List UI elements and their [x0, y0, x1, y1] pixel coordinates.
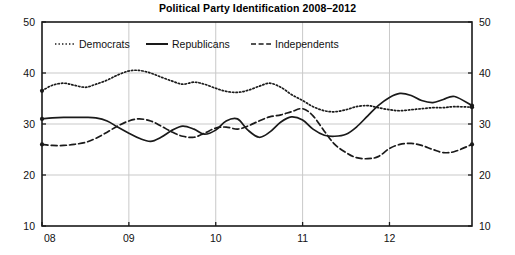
series-start-marker-independents: [40, 142, 44, 146]
y-axis-right-tick-label: 50: [479, 16, 491, 28]
x-axis-labels: 0809101112: [44, 232, 395, 244]
gridlines: [42, 22, 472, 226]
x-axis-tick-label: 10: [210, 232, 222, 244]
y-axis-right-tick-label: 10: [479, 220, 491, 232]
y-axis-left-tick-label: 30: [23, 118, 35, 130]
y-axis-left-tick-label: 50: [23, 16, 35, 28]
x-axis-tick-label: 11: [297, 232, 308, 244]
y-axis-left-labels: 1020304050: [23, 16, 35, 232]
y-axis-right-labels: 1020304050: [479, 16, 491, 232]
y-axis-left-tick-label: 20: [23, 169, 35, 181]
series-line-democrats: [42, 70, 472, 112]
series-end-marker-independents: [470, 142, 474, 146]
series-start-marker-republicans: [40, 117, 44, 121]
chart-plot-area: 1020304050 1020304050 0809101112 Democra…: [0, 0, 515, 255]
y-axis-right-tick-label: 30: [479, 118, 491, 130]
y-axis-left-tick-label: 40: [23, 67, 35, 79]
y-axis-left-tick-label: 10: [23, 220, 35, 232]
y-axis-right-tick-label: 20: [479, 169, 491, 181]
chart-legend: DemocratsRepublicansIndependents: [55, 38, 339, 50]
chart-container: Political Party Identification 2008–2012…: [0, 0, 515, 255]
x-axis-tick-label: 09: [123, 232, 135, 244]
y-axis-right-tick-label: 40: [479, 67, 491, 79]
series-start-marker-democrats: [40, 89, 44, 93]
data-series-layer: [42, 70, 472, 158]
x-axis-tick-label: 08: [44, 232, 56, 244]
legend-label-independents: Independents: [275, 38, 339, 50]
series-end-marker-republicans: [470, 104, 474, 108]
series-line-independents: [42, 109, 472, 159]
series-line-republicans: [42, 93, 472, 141]
legend-label-democrats: Democrats: [79, 38, 130, 50]
legend-label-republicans: Republicans: [172, 38, 230, 50]
x-axis-tick-label: 12: [384, 232, 396, 244]
series-endpoint-markers: [40, 89, 474, 147]
